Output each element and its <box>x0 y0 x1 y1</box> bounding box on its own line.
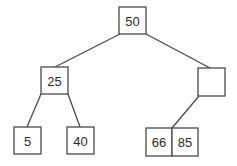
node-40-label: 40 <box>73 134 87 149</box>
node-25: 25 <box>41 67 68 94</box>
node-25-label: 25 <box>47 74 61 89</box>
edge-50-25 <box>55 34 120 67</box>
node-40: 40 <box>67 127 94 154</box>
node-50: 50 <box>119 7 146 34</box>
tree-diagram: 50 25 5 40 66 85 <box>0 0 237 166</box>
edge-25-5 <box>27 94 41 127</box>
node-empty <box>198 68 225 96</box>
edge-empty-66-85 <box>172 96 199 128</box>
node-5: 5 <box>14 127 41 154</box>
node-50-label: 50 <box>125 14 139 29</box>
node-66-85: 66 85 <box>146 128 198 156</box>
edge-25-40 <box>68 94 80 127</box>
edge-50-empty <box>146 34 210 68</box>
node-66-label: 66 <box>152 135 166 150</box>
node-5-label: 5 <box>24 134 31 149</box>
node-85-label: 85 <box>178 135 192 150</box>
